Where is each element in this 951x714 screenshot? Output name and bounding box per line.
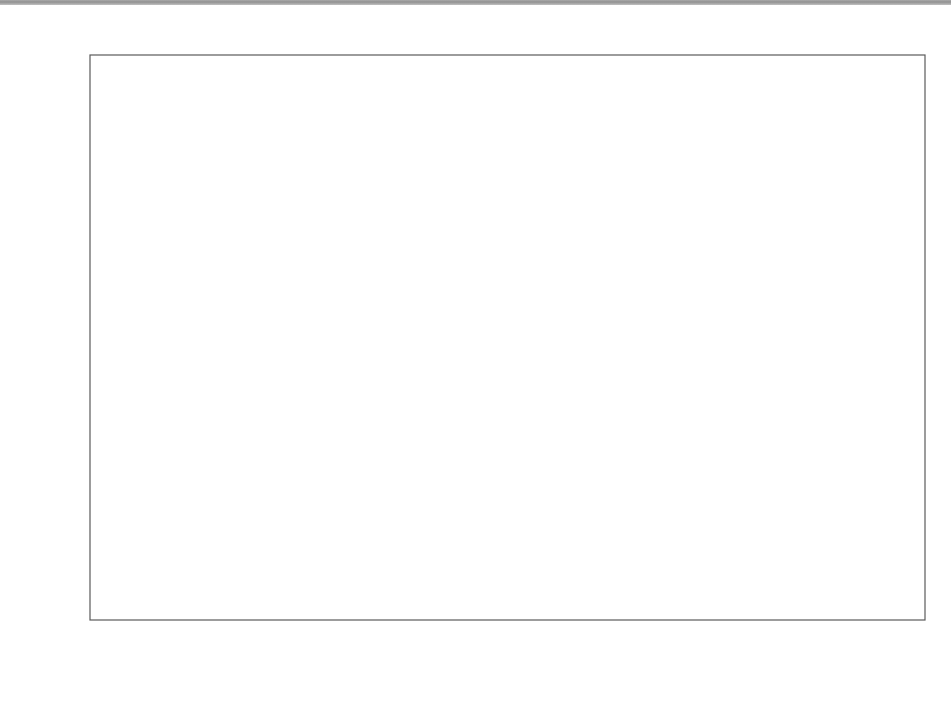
det-chart-figure — [0, 0, 951, 714]
plot-canvas — [0, 0, 951, 714]
plot-frame — [90, 55, 925, 620]
